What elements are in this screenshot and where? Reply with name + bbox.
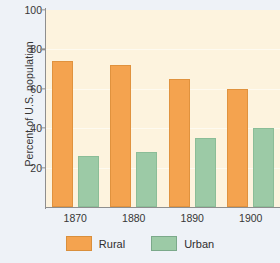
legend-label: Rural (99, 238, 125, 250)
gridline (46, 49, 280, 50)
x-axis-tick-labels: 1870188018901900 (46, 212, 280, 228)
x-tick-label: 1870 (64, 212, 87, 224)
bar-rural-1890 (169, 79, 190, 207)
legend-entry-urban: Urban (151, 236, 214, 251)
bar-chart-figure: Percent of U.S. population 20406080100 1… (0, 0, 280, 263)
y-axis-tick-labels: 20406080100 (18, 0, 42, 263)
y-tick-label: 20 (18, 162, 42, 174)
x-axis-line (45, 207, 280, 208)
x-tick-label: 1900 (239, 212, 262, 224)
bar-urban-1890 (195, 138, 216, 207)
y-tick-label: 80 (18, 43, 42, 55)
y-tick-label: 100 (18, 4, 42, 16)
chart-legend: RuralUrban (0, 236, 280, 251)
legend-label: Urban (184, 238, 214, 250)
y-axis-tick (40, 9, 46, 10)
y-axis-tick (40, 49, 46, 50)
y-tick-label: 40 (18, 122, 42, 134)
rural-swatch (66, 236, 92, 251)
bar-urban-1900 (253, 128, 274, 207)
plot-area (46, 10, 280, 207)
bar-urban-1870 (78, 156, 99, 207)
x-tick-label: 1880 (122, 212, 145, 224)
y-tick-label: 60 (18, 83, 42, 95)
y-axis-tick (40, 167, 46, 168)
x-tick-label: 1890 (181, 212, 204, 224)
bar-urban-1880 (136, 152, 157, 207)
bar-rural-1870 (52, 61, 73, 207)
bar-rural-1880 (110, 65, 131, 207)
legend-entry-rural: Rural (66, 236, 125, 251)
y-axis-tick (40, 128, 46, 129)
urban-swatch (151, 236, 177, 251)
y-axis-line (45, 8, 46, 209)
y-axis-tick (40, 88, 46, 89)
bar-rural-1900 (227, 89, 248, 207)
